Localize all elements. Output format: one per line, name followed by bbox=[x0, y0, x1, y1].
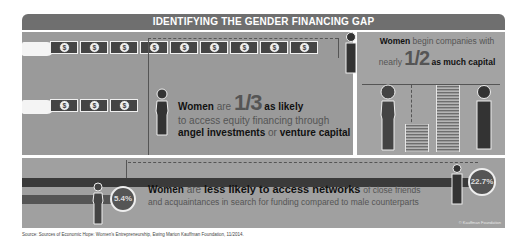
dollar-sign-icon: $ bbox=[59, 42, 70, 53]
one-half-stat: 1/2 bbox=[404, 47, 429, 69]
networks-line-1-rest: of close friends bbox=[363, 185, 420, 195]
dashed-guide-line bbox=[148, 38, 338, 39]
dollar-bill-icon: $ bbox=[80, 41, 108, 54]
large-coin-stack bbox=[436, 85, 460, 152]
networks-panel: 5.4% 22.7% Women are less likely to acce… bbox=[22, 158, 505, 228]
nearly-label: nearly bbox=[379, 57, 402, 67]
venture-capital-label: venture capital bbox=[280, 127, 351, 138]
dollar-bill-icon: $ bbox=[140, 41, 168, 54]
women-label: Women bbox=[178, 101, 214, 112]
dollar-sign-icon: $ bbox=[239, 42, 250, 53]
as-much-capital-label: as much capital bbox=[431, 57, 495, 67]
dollar-bill-icon: $ bbox=[80, 99, 108, 112]
female-figure-icon bbox=[379, 84, 397, 152]
as-likely-label: as likely bbox=[264, 101, 303, 112]
men-percent-badge: 22.7% bbox=[468, 168, 496, 196]
credit-text: © Kauffman Foundation bbox=[459, 220, 501, 225]
dollar-bill-icon: $ bbox=[230, 41, 258, 54]
female-figure-icon bbox=[91, 182, 105, 226]
dollar-bill-icon: $ bbox=[50, 41, 78, 54]
women-percent-badge: 5.4% bbox=[110, 186, 136, 212]
equity-stat-text: Women are 1/3 as likely to access equity… bbox=[178, 90, 358, 138]
male-figure-icon bbox=[475, 85, 493, 151]
male-money-row: $$$$$$$$$ bbox=[50, 41, 318, 54]
female-money-row: $$$ bbox=[50, 99, 138, 112]
dollar-bill-icon: $ bbox=[50, 99, 78, 112]
dashed-guide-line bbox=[128, 162, 478, 163]
equity-financing-panel: $$$$$$$$$ $$$ Women are 1/3 as likely to… bbox=[22, 32, 353, 155]
divider-line bbox=[126, 160, 127, 178]
starting-capital-panel: Women begin companies with nearly 1/2 as… bbox=[357, 32, 505, 155]
dollar-bill-icon: $ bbox=[110, 99, 138, 112]
male-figure-icon bbox=[344, 32, 358, 76]
female-figure-icon bbox=[154, 88, 170, 138]
dollar-bill-icon: $ bbox=[290, 41, 318, 54]
dollar-sign-icon: $ bbox=[179, 42, 190, 53]
dollar-sign-icon: $ bbox=[209, 42, 220, 53]
capital-stat-text: Women begin companies with nearly 1/2 as… bbox=[367, 37, 507, 70]
women-label: Women bbox=[148, 184, 184, 195]
source-citation: Source: Sources of Economic Hope: Women'… bbox=[22, 232, 244, 237]
dollar-sign-icon: $ bbox=[149, 42, 160, 53]
dollar-bill-icon: $ bbox=[110, 41, 138, 54]
dollar-sign-icon: $ bbox=[299, 42, 310, 53]
are-label: are bbox=[187, 184, 201, 195]
networks-line-2: and acquaintances in search for funding … bbox=[148, 197, 419, 207]
dollar-bill-icon: $ bbox=[170, 41, 198, 54]
are-label: are bbox=[217, 101, 231, 112]
one-third-stat: 1/3 bbox=[234, 90, 262, 115]
networks-stat-text: Women are less likely to access networks… bbox=[148, 183, 468, 208]
dollar-sign-icon: $ bbox=[269, 42, 280, 53]
dollar-sign-icon: $ bbox=[119, 100, 130, 111]
infographic-title: IDENTIFYING THE GENDER FINANCING GAP bbox=[22, 14, 505, 30]
or-label: or bbox=[268, 127, 277, 138]
vertical-dashed-guide bbox=[411, 85, 412, 127]
small-coin-stack bbox=[405, 124, 429, 152]
dollar-bill-icon: $ bbox=[260, 41, 288, 54]
capital-line-1: begin companies with bbox=[413, 36, 495, 46]
divider-line-right bbox=[338, 38, 339, 58]
less-likely-networks-label: less likely to access networks bbox=[204, 183, 361, 195]
dollar-sign-icon: $ bbox=[89, 100, 100, 111]
equity-line-2: to access equity financing through bbox=[178, 115, 329, 126]
dollar-bill-icon: $ bbox=[200, 41, 228, 54]
angel-investments-label: angel investments bbox=[178, 127, 265, 138]
divider-line bbox=[148, 38, 149, 155]
dollar-sign-icon: $ bbox=[119, 42, 130, 53]
dollar-sign-icon: $ bbox=[59, 100, 70, 111]
dollar-sign-icon: $ bbox=[89, 42, 100, 53]
women-label: Women bbox=[380, 36, 411, 46]
